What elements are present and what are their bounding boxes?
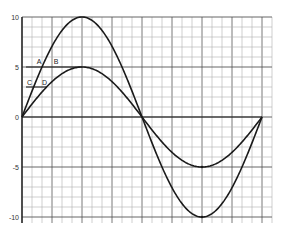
point-label-A: A (37, 58, 42, 65)
y-tick-label: 0 (15, 114, 19, 121)
trough-point (201, 166, 204, 169)
y-tick-label: 5 (15, 64, 19, 71)
point-label-C: C (27, 79, 32, 86)
trough-point (201, 216, 204, 219)
y-tick-label: 10 (11, 14, 19, 21)
grid (22, 17, 272, 223)
sine-chart: 1050-5-10 ABCD (0, 0, 283, 238)
y-tick-label: -5 (13, 164, 19, 171)
y-tick-labels: 1050-5-10 (9, 14, 19, 221)
point-label-B: B (54, 58, 59, 65)
point-label-D: D (42, 79, 47, 86)
y-tick-label: -10 (9, 214, 19, 221)
